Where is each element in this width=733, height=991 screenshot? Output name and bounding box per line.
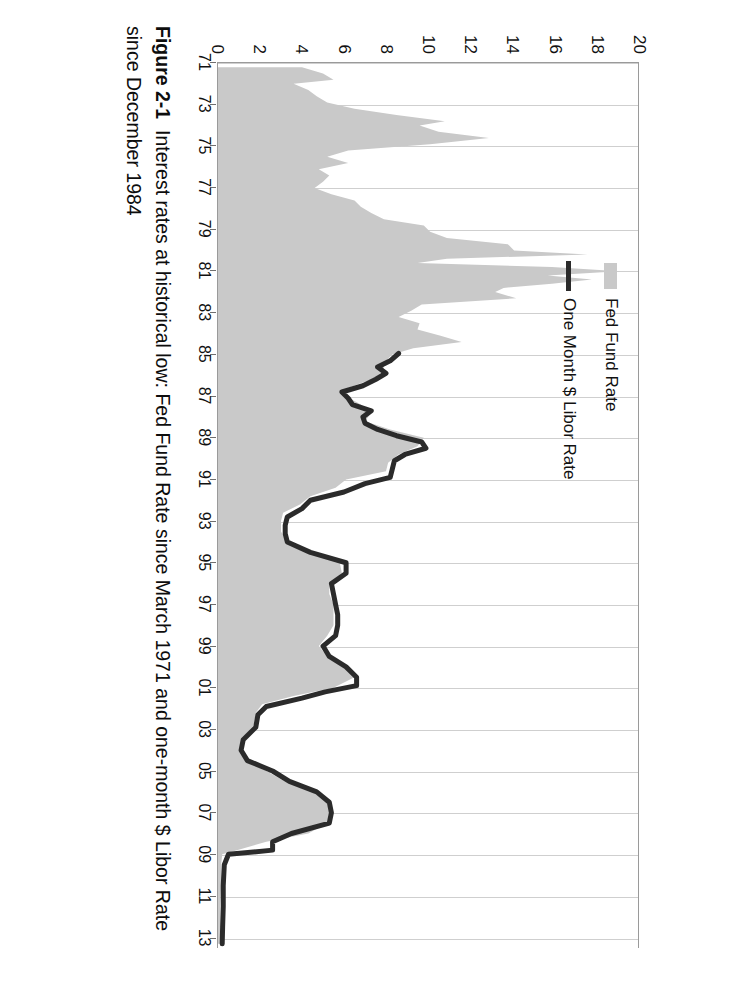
x-axis-tick-label: 99 bbox=[195, 636, 213, 654]
y-axis-tick-label: 16 bbox=[544, 35, 564, 54]
x-axis-tick-label: 13 bbox=[195, 928, 213, 946]
y-axis-tick-label: 18 bbox=[586, 35, 606, 54]
figure: 02468101214161820 7173757779818385878991… bbox=[87, 26, 647, 966]
y-axis-tick-label: 8 bbox=[375, 44, 395, 53]
x-axis-tick-label: 01 bbox=[195, 678, 213, 696]
y-axis-tick-label: 10 bbox=[418, 35, 438, 54]
y-axis-tick-label: 6 bbox=[333, 44, 353, 53]
x-axis-tick-label: 09 bbox=[195, 845, 213, 863]
line-swatch-icon bbox=[566, 254, 571, 298]
x-axis: 7173757779818385878991939597990103050709… bbox=[187, 62, 215, 948]
x-axis-tick-label: 87 bbox=[195, 386, 213, 404]
x-axis-tick-label: 75 bbox=[195, 136, 213, 154]
x-axis-tick-label: 03 bbox=[195, 720, 213, 738]
chart: 02468101214161820 7173757779818385878991… bbox=[185, 26, 647, 966]
x-axis-tick-label: 71 bbox=[195, 53, 213, 71]
x-axis-tick-label: 95 bbox=[195, 553, 213, 571]
y-axis-tick-label: 0 bbox=[207, 44, 227, 53]
figure-page: 02468101214161820 7173757779818385878991… bbox=[0, 0, 733, 991]
figure-number: Figure 2-1 bbox=[152, 26, 174, 119]
x-axis-tick-label: 91 bbox=[195, 470, 213, 488]
x-axis-tick-label: 77 bbox=[195, 178, 213, 196]
legend-item-fed-fund-rate: Fed Fund Rate bbox=[601, 254, 621, 514]
x-axis-tick-label: 05 bbox=[195, 761, 213, 779]
x-axis-tick-label: 79 bbox=[195, 219, 213, 237]
figure-caption: Figure 2-1 Interest rates at historical … bbox=[119, 26, 177, 944]
y-axis-tick-label: 14 bbox=[502, 35, 522, 54]
legend-label-fed-fund-rate: Fed Fund Rate bbox=[601, 298, 621, 411]
area-swatch-icon bbox=[604, 254, 617, 298]
x-axis-tick-label: 07 bbox=[195, 803, 213, 821]
x-axis-tick-label: 97 bbox=[195, 595, 213, 613]
rotated-figure-container: 02468101214161820 7173757779818385878991… bbox=[87, 26, 647, 966]
x-axis-tick-label: 85 bbox=[195, 344, 213, 362]
y-axis-tick-label: 12 bbox=[460, 35, 480, 54]
x-axis-tick-label: 93 bbox=[195, 511, 213, 529]
legend-label-libor-rate: One Month $ Libor Rate bbox=[559, 298, 579, 479]
legend-item-libor-rate: One Month $ Libor Rate bbox=[559, 254, 579, 514]
y-axis-tick-label: 4 bbox=[291, 44, 311, 53]
x-axis-tick-label: 11 bbox=[195, 887, 213, 904]
y-axis-tick-label: 2 bbox=[249, 44, 269, 53]
x-axis-tick-label: 83 bbox=[195, 303, 213, 321]
x-axis-tick-label: 89 bbox=[195, 428, 213, 446]
legend: Fed Fund Rate One Month $ Libor Rate bbox=[537, 254, 621, 514]
figure-caption-text: Interest rates at historical low: Fed Fu… bbox=[123, 26, 174, 931]
x-axis-tick-label: 81 bbox=[195, 261, 213, 279]
y-axis-tick-label: 20 bbox=[629, 35, 649, 54]
x-axis-tick-label: 73 bbox=[195, 94, 213, 112]
y-axis: 02468101214161820 bbox=[217, 26, 647, 60]
